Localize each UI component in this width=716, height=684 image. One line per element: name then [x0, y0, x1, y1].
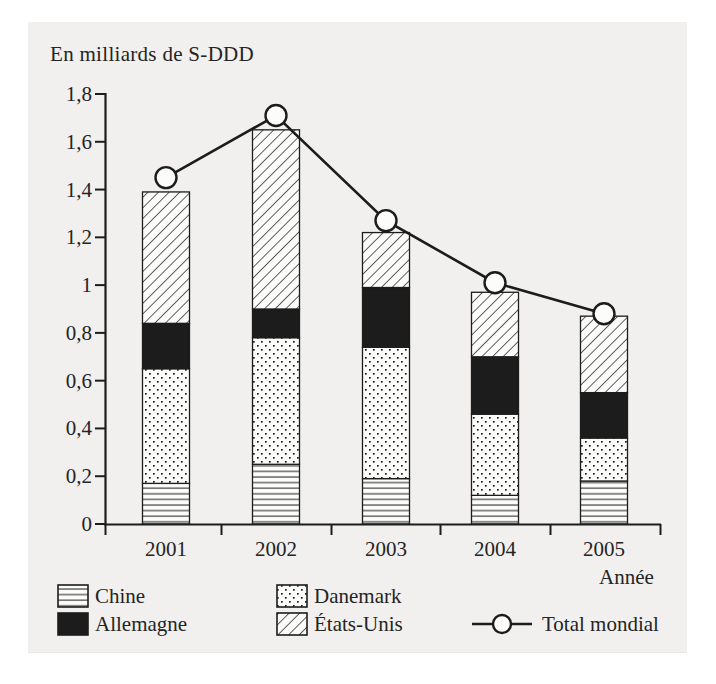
- bar-segment-etats-unis-2003: [363, 233, 410, 288]
- bar-segment-etats-unis-2005: [581, 316, 628, 392]
- bar-segment-danemark-2005: [581, 438, 628, 481]
- bar-segment-allemagne-2001: [143, 323, 190, 368]
- legend-label-total-mondial: Total mondial: [542, 612, 659, 636]
- legend-marker-circle: [493, 615, 511, 633]
- bar-segment-allemagne-2003: [363, 288, 410, 348]
- y-tick-label: 1,8: [66, 82, 92, 106]
- bar-segment-chine-2003: [363, 479, 410, 524]
- bar-segment-chine-2005: [581, 481, 628, 524]
- bar-segment-danemark-2004: [472, 414, 519, 495]
- legend-swatch-chine: [58, 585, 88, 607]
- bar-segment-chine-2004: [472, 495, 519, 524]
- legend-label-allemagne: Allemagne: [95, 612, 187, 636]
- x-category-label: 2002: [255, 537, 297, 561]
- x-category-label: 2001: [145, 537, 187, 561]
- y-tick-label: 1,4: [66, 178, 93, 202]
- y-tick-label: 1,2: [66, 225, 92, 249]
- bar-segment-etats-unis-2002: [253, 130, 300, 309]
- x-category-label: 2004: [474, 537, 517, 561]
- total-marker-2001: [156, 167, 177, 188]
- legend-label-danemark: Danemark: [314, 584, 402, 608]
- bar-segment-danemark-2001: [143, 369, 190, 484]
- legend-label-etats-unis: États-Unis: [314, 612, 403, 636]
- bar-segment-chine-2002: [253, 464, 300, 524]
- stacked-bar-chart: 00,20,40,60,811,21,41,61,820012002200320…: [0, 0, 716, 684]
- legend-swatch-danemark: [277, 585, 307, 607]
- legend-label-chine: Chine: [95, 584, 145, 608]
- total-marker-2003: [376, 210, 397, 231]
- x-category-label: 2005: [583, 537, 625, 561]
- y-tick-label: 0: [82, 512, 93, 536]
- bar-segment-chine-2001: [143, 483, 190, 524]
- scanned-figure-page: En milliards de S-DDD Année 00,20,40,60,…: [0, 0, 716, 684]
- y-tick-label: 0,8: [66, 321, 92, 345]
- x-category-label: 2003: [365, 537, 407, 561]
- bar-segment-allemagne-2002: [253, 309, 300, 338]
- bar-segment-danemark-2002: [253, 338, 300, 465]
- bar-segment-danemark-2003: [363, 347, 410, 478]
- total-marker-2002: [266, 105, 287, 126]
- bar-segment-allemagne-2004: [472, 357, 519, 414]
- legend-swatch-allemagne: [58, 613, 88, 635]
- y-tick-label: 0,4: [66, 416, 93, 440]
- y-tick-label: 0,6: [66, 369, 92, 393]
- legend-swatch-etats-unis: [277, 613, 307, 635]
- y-tick-label: 0,2: [66, 464, 92, 488]
- bar-segment-etats-unis-2004: [472, 292, 519, 357]
- y-tick-label: 1: [82, 273, 93, 297]
- total-marker-2004: [485, 272, 506, 293]
- bar-segment-allemagne-2005: [581, 393, 628, 438]
- bar-segment-etats-unis-2001: [143, 192, 190, 323]
- y-tick-label: 1,6: [66, 130, 92, 154]
- total-marker-2005: [594, 303, 615, 324]
